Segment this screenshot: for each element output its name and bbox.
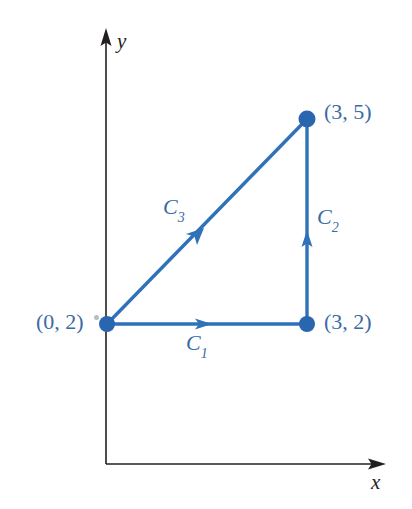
- curve-label-c1: C1: [186, 332, 208, 358]
- curve-label-c1-subscript: 1: [201, 346, 208, 361]
- point-label-3-5: (3, 5): [324, 101, 372, 123]
- point-dot-3-2[interactable]: [299, 316, 315, 332]
- point-dot-3-5[interactable]: [299, 111, 316, 128]
- point-label-0-2: (0, 2): [36, 311, 84, 333]
- y-axis-label: y: [117, 31, 126, 52]
- curve-label-c2: C2: [317, 206, 339, 232]
- diagram-svg: [0, 0, 412, 509]
- curve-label-c2-base: C: [317, 204, 332, 229]
- curve-label-c3-base: C: [163, 194, 178, 219]
- curve-c3-segment: [107, 119, 307, 324]
- point-dot-0-2[interactable]: [99, 316, 115, 332]
- x-axis-label: x: [371, 472, 380, 493]
- gray-speck-artifact: [94, 315, 99, 320]
- figure-canvas: y x (0, 2) (3, 2) (3, 5) C1 C2 C3: [0, 0, 412, 509]
- curve-label-c3-subscript: 3: [178, 210, 185, 225]
- point-label-3-2: (3, 2): [324, 311, 372, 333]
- curve-label-c1-base: C: [186, 330, 201, 355]
- curve-label-c2-subscript: 2: [332, 220, 339, 235]
- curve-label-c3: C3: [163, 196, 185, 222]
